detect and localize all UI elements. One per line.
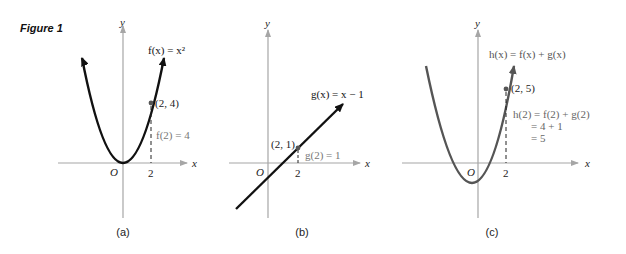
x-axis-label: x xyxy=(364,157,370,169)
point-marker xyxy=(296,146,301,151)
function-label: f(x) = x² xyxy=(148,44,186,57)
point-label: (2, 1) xyxy=(271,138,295,151)
origin-label: O xyxy=(467,166,475,178)
point-label: (2, 5) xyxy=(511,82,535,95)
y-axis-label: y xyxy=(264,17,270,29)
point-label: (2, 4) xyxy=(155,97,179,110)
panel-c: h(x) = f(x) + g(x) (2, 5) h(2) = f(2) + … xyxy=(402,17,590,238)
value-line-3: = 5 xyxy=(531,132,546,144)
value-label: g(2) = 1 xyxy=(305,149,341,162)
x-axis-label: x xyxy=(584,157,590,169)
value-line-2: = 4 + 1 xyxy=(531,120,563,132)
origin-label: O xyxy=(256,166,264,178)
caption: (a) xyxy=(116,226,129,238)
panel-b: g(x) = x − 1 (2, 1) g(2) = 1 O 2 x y (b) xyxy=(229,17,370,238)
x-axis-label: x xyxy=(191,157,197,169)
value-label: f(2) = 4 xyxy=(156,129,190,142)
point-marker xyxy=(149,101,154,106)
origin-label: O xyxy=(110,166,118,178)
figure-canvas: f(x) = x² (2, 4) f(2) = 4 O 2 x y (a) g(… xyxy=(0,0,626,254)
x-tick-label: 2 xyxy=(503,167,509,179)
y-axis-label: y xyxy=(474,17,480,29)
function-label: g(x) = x − 1 xyxy=(311,88,364,101)
function-label: h(x) = f(x) + g(x) xyxy=(489,48,566,61)
caption: (b) xyxy=(295,226,308,238)
panel-a: f(x) = x² (2, 4) f(2) = 4 O 2 x y (a) xyxy=(58,16,197,238)
x-tick-label: 2 xyxy=(148,167,154,179)
caption: (c) xyxy=(486,226,499,238)
x-tick-label: 2 xyxy=(295,167,301,179)
point-marker xyxy=(504,87,509,92)
y-axis-label: y xyxy=(119,16,125,28)
